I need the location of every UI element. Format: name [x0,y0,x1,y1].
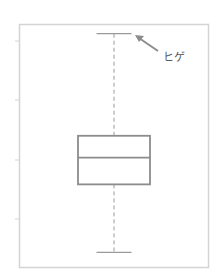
y-axis-ticks [15,41,19,219]
boxplot-figure: ヒゲ [0,0,224,278]
interquartile-box [78,136,150,185]
whisker-label: ヒゲ [163,51,185,64]
